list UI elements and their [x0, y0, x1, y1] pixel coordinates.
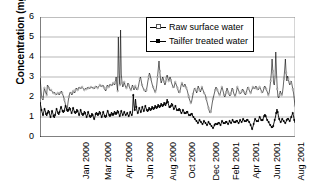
- y-tick-label: 3: [20, 71, 34, 81]
- series-tailfer-treated-water: [40, 94, 295, 130]
- chart-container: Concentration (mg/l) 0123456 Jan 2000Mar…: [0, 0, 310, 192]
- legend-item-raw-surface-water: Raw surface water: [150, 20, 248, 34]
- x-tick-label: Dec 2000: [210, 142, 220, 181]
- legend-marker-filled-diamond-icon: [150, 36, 166, 46]
- x-tick-label: Apr 2001: [251, 142, 261, 179]
- legend-label-raw-surface-water: Raw surface water: [169, 22, 244, 32]
- legend: Raw surface water Tailfer treated water: [146, 17, 254, 52]
- y-tick-label: 6: [20, 11, 34, 21]
- x-tick-label: Apr 2000: [123, 142, 133, 179]
- x-tick-label: Aug 2001: [295, 142, 305, 181]
- y-tick-label: 2: [20, 91, 34, 101]
- x-tick-label: Jun 2001: [272, 142, 282, 179]
- legend-item-tailfer-treated-water: Tailfer treated water: [150, 34, 248, 48]
- x-tick-label: Mar 2000: [103, 142, 113, 180]
- y-tick-label: 4: [20, 51, 34, 61]
- y-tick-label: 0: [20, 131, 34, 141]
- x-tick-label: Oct 2000: [187, 142, 197, 179]
- legend-marker-open-circle-icon: [150, 22, 166, 32]
- x-tick-label: Jun 2000: [145, 142, 155, 179]
- y-tick-label: 5: [20, 31, 34, 41]
- legend-label-tailfer-treated-water: Tailfer treated water: [169, 36, 248, 46]
- y-tick-label: 1: [20, 111, 34, 121]
- x-tick-label: Jan 2000: [81, 142, 91, 179]
- x-tick-label: Aug 2000: [168, 142, 178, 181]
- x-tick-label: Feb 2001: [231, 142, 241, 180]
